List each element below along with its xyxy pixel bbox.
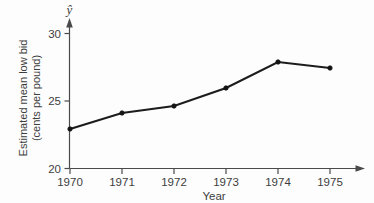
data-point-1971 [120, 111, 124, 115]
y-tick-label-25: 25 [48, 95, 61, 107]
data-point-1975 [328, 66, 332, 70]
data-point-1973 [224, 86, 228, 90]
chart-screenshot: 30 25 20 ŷ 1970 1971 1972 1973 1974 1975… [0, 0, 374, 203]
x-tick-label-1972: 1972 [161, 176, 187, 188]
x-tick-label-1975: 1975 [317, 176, 343, 188]
data-point-1972 [172, 104, 176, 108]
y-axis-title-line1: Estimated mean low bid [17, 40, 29, 157]
y-tick-label-30: 30 [48, 28, 61, 40]
data-series-line [70, 62, 330, 129]
line-chart: 30 25 20 ŷ 1970 1971 1972 1973 1974 1975… [0, 0, 374, 203]
data-point-1974 [276, 60, 280, 64]
y-tick-label-20: 20 [48, 163, 61, 175]
y-axis-symbol: ŷ [65, 2, 73, 17]
data-point-1970 [68, 127, 72, 131]
y-axis-title-line2: (cents per pound) [30, 55, 42, 141]
x-tick-label-1973: 1973 [213, 176, 239, 188]
x-axis-arrow-icon [356, 165, 366, 172]
x-tick-label-1971: 1971 [109, 176, 135, 188]
x-tick-label-1974: 1974 [265, 176, 291, 188]
y-axis-arrow-icon [66, 18, 73, 28]
x-tick-label-1970: 1970 [57, 176, 83, 188]
x-axis-title: Year [202, 190, 225, 202]
